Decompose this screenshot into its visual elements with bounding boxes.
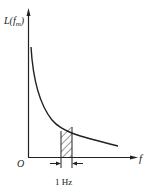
origin-label: O (17, 158, 24, 169)
x-axis-label: f (139, 152, 144, 164)
curve (31, 47, 118, 146)
arrow-left-icon (72, 162, 77, 166)
y-axis-label: L(fm) (3, 15, 25, 28)
x-axis-arrow-icon (130, 156, 138, 160)
spectrum-diagram: L(fm) O f 1 Hz (0, 0, 147, 191)
y-axis-arrow-icon (27, 8, 31, 16)
arrow-right-icon (56, 162, 61, 166)
band-label: 1 Hz (55, 177, 72, 187)
hatched-band (61, 127, 72, 158)
